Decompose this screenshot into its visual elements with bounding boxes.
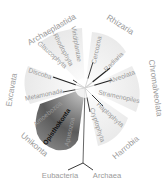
root-labels: EubacteriaArchaea [42, 171, 122, 180]
tree-canvas: ArchaeplastidaRhizariaChromalveolataExca… [0, 0, 165, 181]
phylogeny-diagram: ArchaeplastidaRhizariaChromalveolataExca… [0, 0, 165, 181]
root-label-archaea[interactable]: Archaea [93, 171, 122, 180]
root-label-eubacteria[interactable]: Eubacteria [42, 171, 79, 180]
supergroup-label-chromalveolata[interactable]: Chromalveolata [147, 59, 164, 117]
supergroup-label-rhizaria[interactable]: Rhizaria [105, 13, 136, 37]
supergroup-label-harrobia[interactable]: Harrobia [111, 134, 141, 161]
supergroup-label-excavata[interactable]: Excavata [4, 72, 19, 107]
